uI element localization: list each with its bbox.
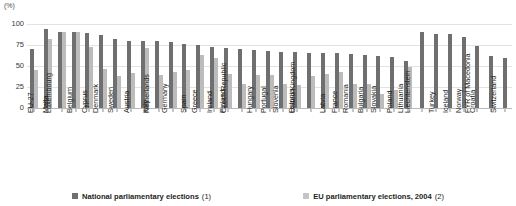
x-axis-label: Sweden: [107, 87, 114, 113]
x-axis-category: Turkey: [429, 109, 443, 185]
x-axis-category: France: [332, 109, 346, 185]
legend-label-national: National parliamentary elections: [82, 192, 199, 201]
bar: [420, 32, 424, 108]
x-axis-category: Italy: [138, 109, 152, 185]
x-axis-label-text: Latvia: [319, 94, 326, 113]
x-axis-label: Liechtenstein: [404, 71, 411, 113]
x-axis-label: Austria: [123, 91, 130, 113]
x-axis-label: United Kingdom: [289, 62, 296, 113]
x-axis-label-text: Bulgaria: [357, 87, 364, 113]
x-axis-label: Denmark: [92, 84, 99, 113]
axis-tick: [75, 109, 76, 112]
bar: [117, 76, 121, 108]
bar: [200, 55, 204, 108]
x-axis-label-text: Germany: [161, 83, 168, 113]
y-tick-label-100: 100: [2, 20, 24, 27]
axis-tick: [297, 109, 298, 112]
x-axis-category: Bulgaria: [360, 109, 374, 185]
x-axis-label-text: Cyprus: [81, 90, 88, 113]
x-axis-category: Switzerland: [498, 109, 512, 185]
x-axis-category: Netherlands: [152, 109, 166, 185]
x-axis-label-text: Ireland: [206, 91, 213, 113]
x-axis-category: Romania: [346, 109, 360, 185]
x-axis-label-text: Turkey: [428, 91, 435, 113]
axis-tick: [103, 109, 104, 112]
bar: [131, 73, 135, 108]
x-axis-label-text: Netherlands: [142, 74, 149, 113]
x-axis-label: Turkey: [428, 91, 435, 113]
x-axis-category: Poland: [387, 109, 401, 185]
x-axis-category: Cyprus: [82, 109, 96, 185]
x-axis-category: Denmark: [96, 109, 110, 185]
x-axis-label-text: United Kingdom: [289, 62, 296, 113]
x-axis-label: Ireland: [206, 91, 213, 113]
axis-tick: [241, 109, 242, 112]
x-axis-category: Hungary: [249, 109, 263, 185]
x-axis-category: Lithuania: [401, 109, 415, 185]
x-axis-label: Slovakia: [370, 86, 377, 113]
axis-tick: [421, 109, 422, 112]
x-axis-category: EU-27: [27, 109, 41, 185]
x-axis-category: Estonia: [290, 109, 304, 185]
x-axis-category: Portugal: [263, 109, 277, 185]
legend-note-national: (1): [202, 192, 211, 201]
x-axis-label: Greece: [192, 89, 199, 113]
x-axis-label: Luxembourg: [45, 73, 52, 113]
bar: [228, 74, 232, 108]
x-axis-label-text: Liechtenstein: [404, 71, 411, 113]
x-axis-label: Romania: [342, 84, 349, 113]
axis-tick: [255, 109, 256, 112]
legend-note-eu: (2): [435, 192, 444, 201]
x-axis-category: Greece: [193, 109, 207, 185]
plot-area: [27, 24, 512, 108]
axis-tick: [505, 109, 506, 112]
x-axis-label: EU-27: [27, 93, 34, 113]
x-axis-label-text: Poland: [386, 91, 393, 113]
y-tick-label-0: 0: [2, 104, 24, 111]
bar-group: [304, 24, 318, 108]
x-axis-label-text: Sweden: [107, 87, 114, 113]
x-axis-label-text: Spain: [180, 95, 187, 113]
y-tick-label-75: 75: [2, 41, 24, 48]
x-axis-label: Belgium: [66, 87, 73, 113]
axis-tick: [172, 109, 173, 112]
axis-tick: [200, 109, 201, 112]
x-axis-label-text: Austria: [123, 91, 130, 113]
axis-tick: [269, 109, 270, 112]
x-axis-label-text: Norway: [455, 89, 462, 113]
y-tick-label-25: 25: [2, 83, 24, 90]
x-axis-label: Portugal: [259, 86, 266, 113]
bar: [380, 94, 384, 108]
x-axis-label-text: Portugal: [259, 86, 266, 113]
legend-item-national: National parliamentary elections (1): [72, 192, 211, 201]
x-axis-label: Norway: [455, 89, 462, 113]
x-axis-category: Ireland: [207, 109, 221, 185]
bar: [311, 76, 315, 108]
x-axis-label-text: Czech Republic: [220, 63, 227, 113]
x-axis-category: United Kingdom: [304, 109, 318, 185]
x-axis-label: Czech Republic: [220, 63, 227, 113]
axis-tick: [366, 109, 367, 112]
x-axis-label: Cyprus: [81, 90, 88, 113]
x-axis-category: Slovakia: [373, 109, 387, 185]
x-axis-category: Iceland: [443, 109, 457, 185]
x-axis-category: FYR of Macedonia: [484, 109, 498, 185]
bar: [173, 72, 177, 108]
x-axis-label: Slovenia: [273, 85, 280, 113]
legend-label-eu: EU parliamentary elections, 2004: [313, 192, 432, 201]
x-axis-category: Austria: [124, 109, 138, 185]
x-axis-label: Latvia: [319, 94, 326, 113]
x-axis-label-text: Switzerland: [490, 76, 497, 113]
axis-tick: [380, 109, 381, 112]
x-axis-label: Iceland: [441, 90, 448, 113]
x-axis-label: Netherlands: [142, 74, 149, 113]
legend-swatch-icon: [72, 193, 78, 199]
unit-label: (%): [4, 2, 15, 9]
bar-chart: (%) 0255075100 EU-27MaltaLuxembourgBelgi…: [0, 0, 516, 206]
x-axis-label: Hungary: [245, 86, 252, 113]
axis-tick: [283, 109, 284, 112]
x-axis-category: Croatia: [471, 109, 485, 185]
x-axis-label-text: Denmark: [92, 84, 99, 113]
x-axis-category-labels: EU-27MaltaLuxembourgBelgiumCyprusDenmark…: [27, 109, 512, 185]
bar: [297, 85, 301, 108]
